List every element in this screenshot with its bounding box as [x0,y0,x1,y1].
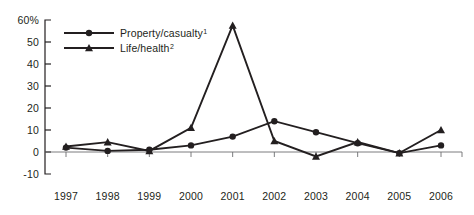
legend-footnote-marker-2: 2 [170,42,174,49]
chart-canvas: -100102030405060%19971998199920002001200… [0,0,474,215]
y-tick-label: 40 [27,58,39,70]
x-tick-label: 1997 [54,190,78,202]
x-tick-label: 2000 [179,190,203,202]
x-tick-label: 2005 [387,190,411,202]
series-1-point-3-circle-marker-icon [188,142,194,148]
series-2-point-3-triangle-marker-icon [187,124,195,131]
x-tick-label: 1998 [96,190,120,202]
legend-1-circle-marker-icon [86,30,92,36]
y-tick-label: -10 [23,168,39,180]
series-1-point-6-circle-marker-icon [313,129,319,135]
legend-footnote-marker-1: 1 [203,27,207,34]
y-tick-label: 0 [33,146,39,158]
y-tick-label: 30 [27,80,39,92]
x-tick-label: 2006 [429,190,453,202]
y-tick-label: 50 [27,36,39,48]
x-tick-label: 2002 [262,190,286,202]
y-tick-label: 20 [27,102,39,114]
y-tick-label: 10 [27,124,39,136]
series-2-point-5-triangle-marker-icon [270,137,278,144]
legend-label-1: Property/casualty1 [120,27,207,39]
series-1-point-4-circle-marker-icon [229,133,235,139]
line-chart: -100102030405060%19971998199920002001200… [0,0,474,215]
series-1-point-5-circle-marker-icon [271,118,277,124]
series-2-point-9-triangle-marker-icon [437,126,445,133]
x-tick-label: 2003 [304,190,328,202]
series-1-point-1-circle-marker-icon [104,148,110,154]
y-axis-spine [45,20,51,174]
x-tick-label: 2001 [221,190,245,202]
x-tick-label: 1999 [137,190,161,202]
y-tick-label: 60% [17,14,39,26]
series-2-point-4-triangle-marker-icon [229,22,237,29]
x-tick-label: 2004 [346,190,370,202]
legend-label-2: Life/health2 [120,42,174,54]
series-1-point-9-circle-marker-icon [438,142,444,148]
